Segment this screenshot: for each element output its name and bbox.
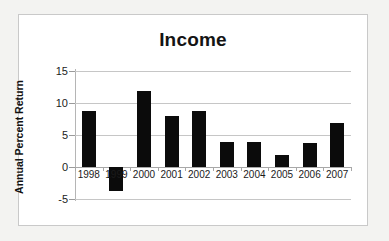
y-tick-label: 0 (62, 161, 68, 173)
gridline--5 (75, 199, 351, 200)
x-tick (213, 167, 214, 171)
x-tick (158, 167, 159, 171)
bar-2005[interactable] (275, 155, 289, 167)
y-tick-label: -5 (58, 193, 68, 205)
bars-group: 1998199920002001200220032004200520062007 (75, 71, 351, 199)
bar-2007[interactable] (330, 123, 344, 167)
x-tick (351, 167, 352, 171)
x-tick-label: 2007 (326, 169, 348, 180)
x-tick-label: 2000 (133, 169, 155, 180)
bar-slot: 2004 (241, 71, 269, 199)
x-tick-label: 1999 (105, 169, 127, 180)
bar-slot: 1998 (75, 71, 103, 199)
x-tick (130, 167, 131, 171)
bar-slot: 2005 (268, 71, 296, 199)
x-tick (75, 167, 76, 171)
bar-slot: 1999 (103, 71, 131, 199)
x-tick (268, 167, 269, 171)
y-tick-label: 15 (56, 65, 68, 77)
x-tick-label: 2003 (216, 169, 238, 180)
x-tick-label: 1998 (78, 169, 100, 180)
bar-slot: 2000 (130, 71, 158, 199)
y-tick-label: 5 (62, 129, 68, 141)
chart-title: Income (19, 29, 367, 51)
chart-figure: Income Annual Percent Return 151050-5 19… (18, 14, 368, 226)
bar-slot: 2001 (158, 71, 186, 199)
x-tick (296, 167, 297, 171)
bar-2000[interactable] (137, 91, 151, 167)
bar-slot: 2007 (323, 71, 351, 199)
x-tick (241, 167, 242, 171)
x-tick (185, 167, 186, 171)
bar-1998[interactable] (82, 111, 96, 167)
bar-2001[interactable] (165, 116, 179, 167)
x-tick-label: 2005 (271, 169, 293, 180)
x-tick (103, 167, 104, 171)
bar-slot: 2006 (296, 71, 324, 199)
y-tick--5 (69, 199, 75, 200)
x-tick-label: 2001 (160, 169, 182, 180)
plot-area: 151050-5 1998199920002001200220032004200… (75, 71, 351, 199)
x-tick (323, 167, 324, 171)
bar-slot: 2003 (213, 71, 241, 199)
bar-slot: 2002 (185, 71, 213, 199)
bar-2006[interactable] (303, 143, 317, 167)
bar-2004[interactable] (247, 142, 261, 167)
bar-2002[interactable] (192, 111, 206, 167)
x-tick-label: 2004 (243, 169, 265, 180)
y-axis-title: Annual Percent Return (13, 71, 27, 203)
x-tick-label: 2002 (188, 169, 210, 180)
bar-2003[interactable] (220, 142, 234, 167)
y-tick-label: 10 (56, 97, 68, 109)
x-tick-label: 2006 (298, 169, 320, 180)
